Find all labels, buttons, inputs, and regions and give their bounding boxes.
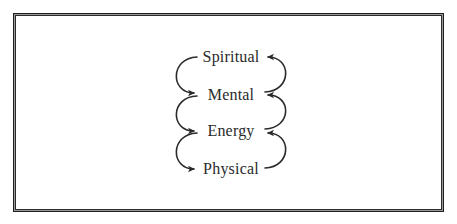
arrow-mental-to-energy-icon — [176, 96, 197, 131]
arrow-physical-to-energy-icon — [265, 133, 286, 168]
arrow-spiritual-to-mental-icon — [176, 57, 197, 93]
arrow-energy-to-mental-icon — [265, 95, 286, 129]
arrow-layer — [0, 0, 457, 224]
arrow-energy-to-physical-icon — [176, 133, 197, 169]
arrow-mental-to-spiritual-icon — [265, 57, 286, 92]
